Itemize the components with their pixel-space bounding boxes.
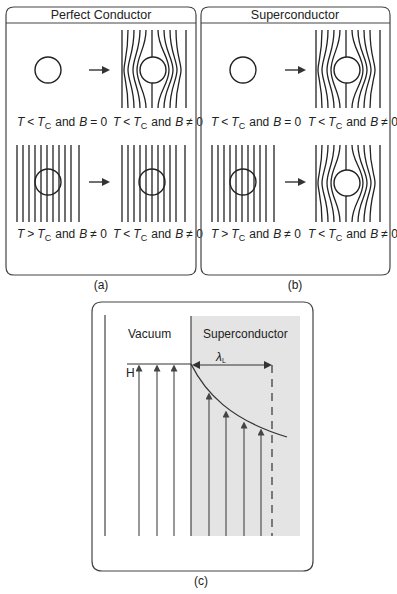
superconductor-label: Superconductor (203, 327, 288, 341)
state-label: T>TCandB≠ 0 (211, 227, 301, 243)
superconductor-region (191, 316, 300, 536)
sample-circle (334, 57, 360, 83)
state-label: T>TCandB≠ 0 (17, 227, 107, 243)
panel-c-penetration-depth: Vacuum Superconductor H λL (c) (92, 302, 313, 588)
state-label: T<TCandB≠ 0 (113, 115, 203, 131)
state-label: T<TCandB= 0 (211, 115, 302, 131)
sample-circle (35, 169, 61, 195)
state-label: T<TCandB≠ 0 (308, 227, 397, 243)
state-label: T<TCandB≠ 0 (113, 227, 203, 243)
sample-circle (230, 57, 256, 83)
panel-a-perfect-conductor: Perfect Conductor T<TCandB= 0 T<TCandB≠ … (6, 7, 203, 292)
panel-b-superconductor: Superconductor T<TCandB= 0 T<TCandB≠ 0 (201, 7, 397, 292)
state-label: T<TCandB= 0 (17, 115, 108, 131)
vacuum-label: Vacuum (128, 327, 171, 341)
meissner-effect-figure: Perfect Conductor T<TCandB= 0 T<TCandB≠ … (0, 0, 397, 594)
uniform-field-lines (17, 145, 79, 222)
field-label-h: H (126, 366, 135, 380)
sample-circle (230, 169, 256, 195)
trapped-field-lines (122, 145, 185, 222)
sample-circle (140, 57, 166, 83)
sample-circle (35, 57, 61, 83)
uniform-field-lines (212, 145, 274, 222)
panel-a-caption: (a) (94, 278, 109, 292)
panel-b-caption: (b) (288, 278, 303, 292)
vacuum-field-arrows (139, 368, 174, 536)
panel-c-caption: (c) (194, 574, 208, 588)
panel-a-title: Perfect Conductor (51, 8, 152, 22)
sample-circle (334, 170, 360, 196)
panel-b-title: Superconductor (251, 8, 339, 22)
state-label: T<TCandB≠ 0 (308, 115, 397, 131)
